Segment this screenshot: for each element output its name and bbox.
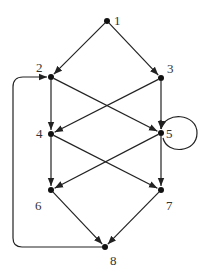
node-3 [158,75,164,81]
node-6 [48,187,54,193]
node-label-2: 2 [36,60,43,75]
directed-graph: 12345678 [0,0,209,269]
node-1 [104,18,110,24]
node-label-1: 1 [114,13,121,28]
edge-1-to-2 [54,23,105,74]
node-label-5: 5 [166,126,173,141]
edge-8-to-2 [13,77,102,247]
nodes [48,18,164,250]
node-5 [158,130,164,136]
node-2 [48,74,54,80]
node-labels: 12345678 [35,13,174,268]
node-label-4: 4 [36,126,43,141]
node-7 [158,187,164,193]
node-4 [48,131,54,137]
edge-6-to-8 [53,192,102,244]
node-label-6: 6 [35,198,42,213]
node-8 [102,244,108,250]
node-label-3: 3 [167,61,174,76]
node-label-8: 8 [110,253,117,268]
edge-7-to-8 [108,192,159,244]
node-label-7: 7 [166,198,173,213]
edge-2-to-5 [54,78,158,131]
edge-1-to-3 [109,23,158,75]
